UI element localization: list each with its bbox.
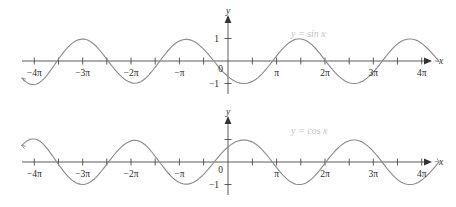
sine-tick-label-neg-one: −1 [209,79,219,89]
cosine-origin-label: 0 [218,165,223,175]
cosine-tick-label-4pi: 4π [417,169,427,179]
sine-tick-label-3pi: 3π [369,68,379,78]
cosine-y-axis-label: y [225,107,231,117]
cosine-chart: −4π −3π −2π −π π 2π 3π 4π −1 0 y x y = c… [22,107,444,195]
cosine-function-label: y = cos x [290,125,328,136]
sine-y-axis-label: y [225,6,231,16]
sine-tick-label-4pi: 4π [417,68,427,78]
sine-tick-label-pi: π [274,68,279,78]
cosine-tick-label-neg4pi: −4π [27,169,42,179]
cosine-x-tick-labels: −4π −3π −2π −π π 2π 3π 4π [27,169,427,179]
trig-graphs-figure: −4π −3π −2π −π π 2π 3π 4π 1 −1 0 y x y =… [0,0,456,207]
cosine-curve-left-arrowhead [22,145,26,148]
sine-chart: −4π −3π −2π −π π 2π 3π 4π 1 −1 0 y x y =… [22,6,444,94]
cosine-tick-label-2pi: 2π [320,169,330,179]
sine-tick-label-neg2pi: −2π [124,68,139,78]
sine-tick-label-negpi: −π [174,68,184,78]
sine-origin-label: 0 [218,64,223,74]
cosine-axes [22,116,432,195]
sine-x-tick-labels: −4π −3π −2π −π π 2π 3π 4π [27,68,427,78]
sine-tick-label-neg3pi: −3π [75,68,90,78]
cosine-x-axis-arrowhead [424,159,432,166]
cosine-y-tick-labels: −1 [209,180,219,190]
sine-function-label: y = sin x [290,28,326,39]
cosine-y-axis-arrowhead [225,116,232,124]
cosine-tick-label-neg-one: −1 [209,180,219,190]
cosine-tick-label-neg2pi: −2π [124,169,139,179]
cosine-x-axis-label: x [438,157,444,167]
sine-x-axis-arrowhead [424,58,432,65]
sine-tick-label-one: 1 [214,34,219,44]
sine-tick-label-2pi: 2π [320,68,330,78]
sine-axes [22,15,432,94]
sine-tick-label-neg4pi: −4π [27,68,42,78]
cosine-tick-label-3pi: 3π [369,169,379,179]
sine-x-axis-label: x [438,56,444,66]
cosine-tick-label-negpi: −π [174,169,184,179]
figure-canvas: −4π −3π −2π −π π 2π 3π 4π 1 −1 0 y x y =… [0,0,456,207]
cosine-tick-label-pi: π [274,169,279,179]
cosine-tick-label-neg3pi: −3π [75,169,90,179]
sine-y-axis-arrowhead [225,15,232,23]
